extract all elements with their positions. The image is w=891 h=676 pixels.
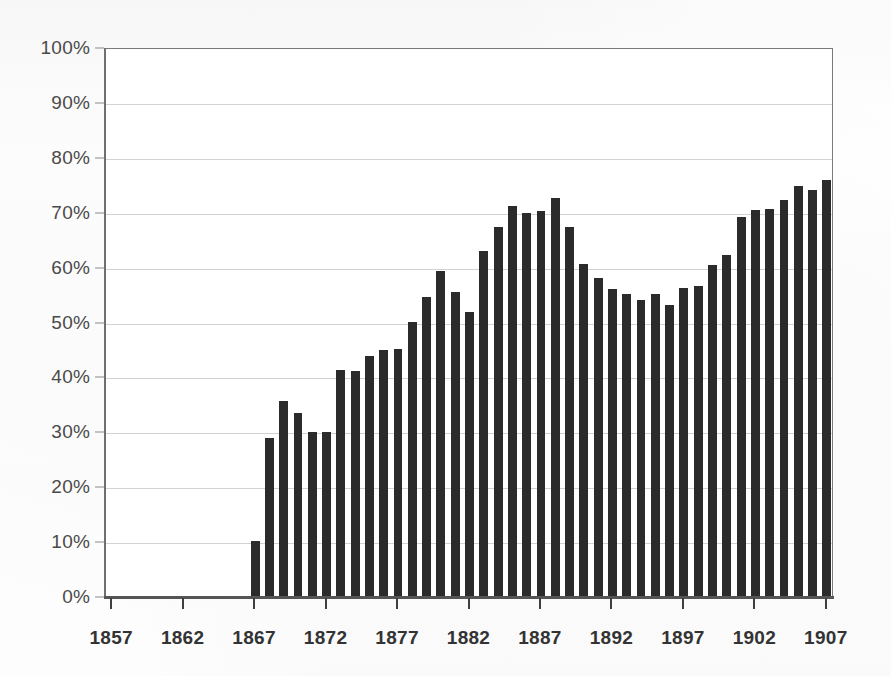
x-tick-mark-1857 [110,598,112,609]
x-tick-mark-1907 [825,598,827,609]
x-tick-label-1907: 1907 [804,627,847,649]
x-tick-mark-1862 [182,598,184,609]
x-tick-mark-1867 [253,598,255,609]
x-tick-label-1862: 1862 [161,627,204,649]
bar-chart-figure: 0%10%20%30%40%50%60%70%80%90%100% 185718… [0,0,891,676]
x-tick-label-1897: 1897 [661,627,704,649]
x-tick-label-1867: 1867 [232,627,275,649]
x-tick-label-1887: 1887 [518,627,561,649]
x-tick-mark-1897 [682,598,684,609]
x-tick-mark-1882 [468,598,470,609]
x-tick-label-1902: 1902 [733,627,776,649]
x-tick-mark-1892 [610,598,612,609]
x-tick-label-1872: 1872 [304,627,347,649]
x-tick-mark-1877 [396,598,398,609]
x-tick-label-1877: 1877 [375,627,418,649]
x-tick-label-1892: 1892 [590,627,633,649]
x-tick-mark-1872 [325,598,327,609]
x-tick-mark-1887 [539,598,541,609]
x-tick-label-1882: 1882 [447,627,490,649]
x-axis: 1857186218671872187718821887189218971902… [0,0,891,676]
x-tick-label-1857: 1857 [89,627,132,649]
x-tick-mark-1902 [753,598,755,609]
